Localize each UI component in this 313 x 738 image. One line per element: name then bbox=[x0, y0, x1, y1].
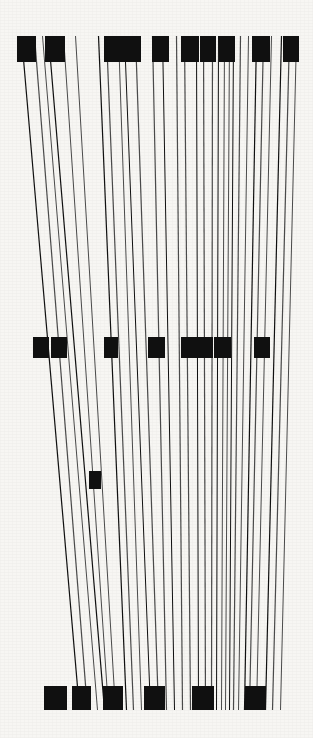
top-marker-block bbox=[219, 36, 235, 62]
top-marker-block bbox=[45, 36, 65, 62]
mid-marker-block bbox=[181, 337, 199, 358]
top-marker-block bbox=[200, 36, 216, 62]
top-marker-block bbox=[152, 36, 169, 62]
lone-marker-block bbox=[89, 471, 101, 489]
mid-marker-block bbox=[214, 337, 231, 358]
mid-marker-block bbox=[104, 337, 118, 358]
background-rect bbox=[0, 0, 313, 738]
lone-marker-group bbox=[89, 471, 101, 489]
mid-marker-block bbox=[199, 337, 213, 358]
mid-marker-block bbox=[148, 337, 165, 358]
mid-marker-block bbox=[51, 337, 67, 358]
bottom-marker-block bbox=[192, 686, 214, 710]
top-marker-block bbox=[181, 36, 199, 62]
bottom-marker-block bbox=[245, 686, 266, 710]
top-marker-block bbox=[104, 36, 123, 62]
artwork-canvas bbox=[0, 0, 313, 738]
mid-marker-block bbox=[254, 337, 270, 358]
bottom-marker-block bbox=[103, 686, 123, 710]
bottom-marker-block bbox=[144, 686, 165, 710]
top-marker-group bbox=[17, 36, 299, 62]
line-art-svg bbox=[0, 0, 313, 738]
top-marker-block bbox=[283, 36, 299, 62]
bottom-marker-block bbox=[72, 686, 91, 710]
bottom-marker-block bbox=[44, 686, 67, 710]
top-marker-block bbox=[252, 36, 270, 62]
top-marker-block bbox=[123, 36, 141, 62]
mid-marker-block bbox=[33, 337, 49, 358]
top-marker-block bbox=[17, 36, 36, 62]
